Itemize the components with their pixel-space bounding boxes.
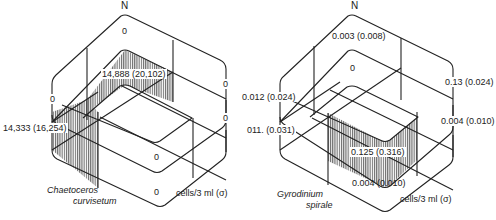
units-label: cells/3 ml (σ): [400, 194, 452, 204]
middle-lower-value: 0: [154, 152, 159, 162]
right-side-lower-value: 0.004 (0.010): [440, 116, 496, 126]
left-side-hatched-value: 14,333 (16,254): [2, 123, 68, 133]
middle-lower-hatched-value: 0.125 (0.316): [350, 147, 406, 157]
middle-hatched-value: 14,888 (20,102): [101, 69, 167, 79]
right-side-upper-value: 0.13 (0.024): [444, 77, 495, 87]
bottom-layer-value: 0.004 (0.010): [352, 178, 406, 188]
chaetoceros-diagram: [52, 15, 226, 207]
species-name-line2: curvisetum: [73, 196, 117, 206]
units-label: cells/3 ml (σ): [176, 188, 228, 198]
right-side-upper-value: 0: [222, 79, 229, 89]
right-side-lower-value: 0: [222, 113, 229, 123]
left-side-upper-value: 0: [49, 94, 56, 104]
bottom-layer-value: 0: [154, 187, 159, 197]
middle-layer-top: [280, 50, 453, 122]
species-name-line1: Gyrodinium: [277, 189, 323, 199]
species-name-line2: spirale: [306, 200, 333, 210]
species-name-line1: Chaetoceros: [47, 185, 98, 195]
left-side-lower-value: 011. (0.031): [246, 125, 296, 135]
left-side-upper-value: 0.012 (0.024): [241, 92, 297, 102]
top-layer-value: 0.003 (0.008): [332, 31, 386, 41]
top-layer: [280, 15, 453, 90]
top-layer-value: 0: [122, 26, 127, 36]
north-label-left: N: [121, 1, 128, 11]
north-label-right: N: [351, 1, 358, 11]
middle-layer-value: 0: [350, 63, 355, 73]
